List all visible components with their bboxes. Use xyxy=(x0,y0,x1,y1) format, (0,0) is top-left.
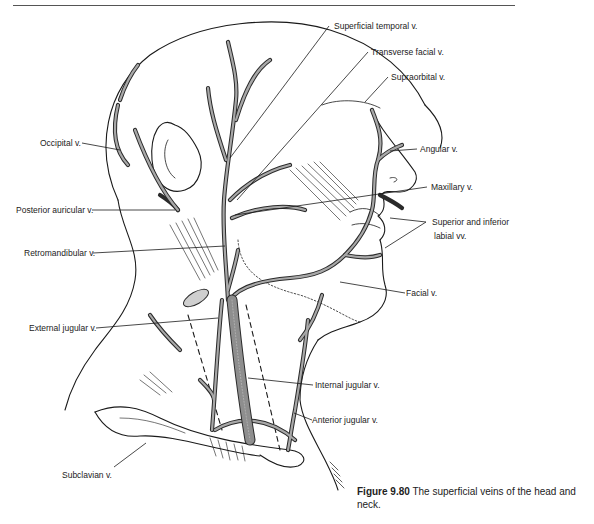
label-labial-veins-line2: labial vv. xyxy=(434,231,466,241)
label-maxillary-vein: Maxillary v. xyxy=(431,182,473,192)
label-subclavian-vein: Subclavian v. xyxy=(62,470,112,480)
label-facial-vein: Facial v. xyxy=(406,288,437,298)
figure-number: Figure 9.80 xyxy=(357,486,410,497)
label-anterior-jugular-vein: Anterior jugular v. xyxy=(312,415,378,425)
posterior-auricular-vein xyxy=(135,130,178,210)
label-labial-veins-line1: Superior and inferior xyxy=(432,217,509,227)
label-angular-vein: Angular v. xyxy=(420,144,458,154)
label-transverse-facial-vein: Transverse facial v. xyxy=(371,47,444,57)
label-occipital-vein: Occipital v. xyxy=(40,138,81,148)
label-internal-jugular-vein: Internal jugular v. xyxy=(315,380,380,390)
head-neck-veins-illustration xyxy=(0,0,594,524)
figure-caption: Figure 9.80 The superficial veins of the… xyxy=(357,485,587,511)
neck-back-outline xyxy=(65,200,136,410)
label-posterior-auricular-vein: Posterior auricular v. xyxy=(16,205,93,215)
label-supraorbital-vein: Supraorbital v. xyxy=(391,72,445,82)
label-external-jugular-vein: External jugular v. xyxy=(29,323,96,333)
label-retromandibular-vein: Retromandibular v. xyxy=(24,248,95,258)
label-superficial-temporal-vein: Superficial temporal v. xyxy=(334,21,417,31)
